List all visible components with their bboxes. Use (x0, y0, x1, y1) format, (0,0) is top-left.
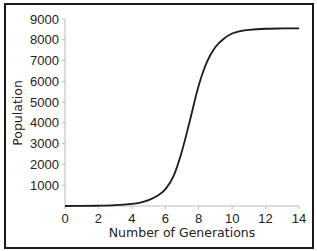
y-tick-label: 9000 (30, 12, 59, 27)
x-tick-label: 10 (225, 211, 239, 226)
x-tick-label: 8 (195, 211, 202, 226)
x-tick-label: 4 (128, 211, 135, 226)
y-tick-label: 4000 (30, 115, 59, 130)
y-tick-label: 5000 (30, 95, 59, 110)
y-tick-label: 8000 (30, 32, 59, 47)
population-curve (65, 28, 299, 206)
x-axis: 02468101214 (61, 206, 306, 226)
y-tick-label: 6000 (30, 74, 59, 89)
x-tick-label: 0 (61, 211, 68, 226)
y-tick-label: 3000 (30, 136, 59, 151)
y-tick-label: 7000 (30, 53, 59, 68)
x-tick-label: 2 (95, 211, 102, 226)
x-tick-label: 6 (162, 211, 169, 226)
x-axis-title: Number of Generations (109, 225, 255, 240)
y-tick-label: 1000 (30, 178, 59, 193)
x-tick-label: 14 (292, 211, 306, 226)
logistic-growth-chart: 100020003000400050006000700080009000 024… (0, 0, 317, 251)
y-tick-label: 2000 (30, 157, 59, 172)
y-axis: 100020003000400050006000700080009000 (30, 12, 65, 207)
x-tick-label: 12 (258, 211, 272, 226)
y-axis-title: Population (10, 80, 25, 146)
